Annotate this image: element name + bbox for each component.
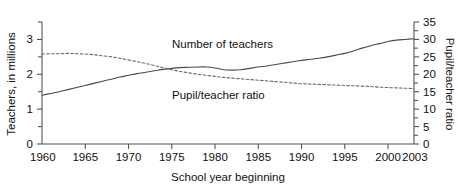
right-tick-label: 30 <box>423 33 436 45</box>
x-tick-label: 1970 <box>116 151 142 163</box>
left-tick-label: 0 <box>27 138 33 150</box>
chart-figure: 3210 35302520151050 19601965197019751980… <box>0 0 457 188</box>
x-tick-label: 1965 <box>72 151 98 163</box>
left-tick-label: 2 <box>27 68 33 80</box>
x-tick-label: 1985 <box>245 151 271 163</box>
right-tick-label: 10 <box>423 103 436 115</box>
right-tick-label: 25 <box>423 51 436 63</box>
right-tick-label: 35 <box>423 16 436 28</box>
x-axis-tick-labels: 1960196519701975198019851990199520002003 <box>30 151 428 163</box>
right-tick-label: 15 <box>423 86 436 98</box>
x-tick-label: 1960 <box>30 151 56 163</box>
y-axis-title-right: Pupil/teacher ratio <box>444 38 456 131</box>
left-tick-label: 1 <box>27 103 33 115</box>
x-tick-label: 1990 <box>289 151 315 163</box>
x-tick-label: 1995 <box>332 151 358 163</box>
left-tick-label: 3 <box>27 33 33 45</box>
right-axis-ticks <box>414 22 419 144</box>
x-tick-label: 1980 <box>202 151 228 163</box>
series-line-pupil-teacher-ratio <box>42 53 414 88</box>
annotation-pupil-teacher-ratio: Pupil/teacher ratio <box>172 89 265 101</box>
x-tick-label: 2003 <box>402 151 428 163</box>
y-axis-title-left: Teachers, in millions <box>5 32 17 136</box>
left-axis-ticks <box>37 22 42 144</box>
right-tick-label: 5 <box>423 121 429 133</box>
right-axis-tick-labels: 35302520151050 <box>423 16 436 150</box>
right-tick-label: 20 <box>423 68 436 80</box>
left-axis-tick-labels: 3210 <box>27 33 33 150</box>
annotation-number-of-teachers: Number of teachers <box>172 38 273 50</box>
right-tick-label: 0 <box>423 138 429 150</box>
x-tick-label: 1975 <box>159 151 185 163</box>
x-axis-ticks <box>85 144 388 149</box>
chart-svg: 3210 35302520151050 19601965197019751980… <box>0 0 457 188</box>
x-tick-label: 2000 <box>375 151 401 163</box>
x-axis-title: School year beginning <box>171 171 285 183</box>
